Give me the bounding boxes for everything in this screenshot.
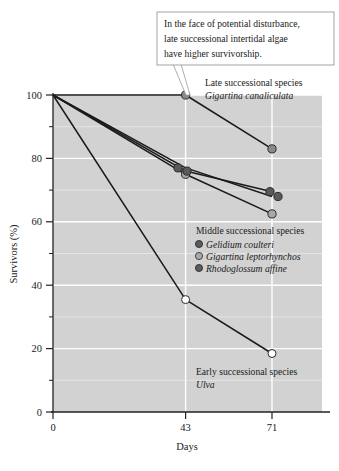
callout-pointer — [173, 64, 190, 95]
marker-gigartina-leptorhynchos-d71 — [268, 210, 276, 218]
x-axis-title: Days — [176, 441, 198, 452]
legend-marker-gigartina-leptorhynchos — [195, 252, 202, 259]
x-tick-label-0: 0 — [50, 422, 55, 433]
legend-label-gelidium-coulteri: Gelidium coulteri — [206, 239, 274, 250]
early-label-species: Ulva — [196, 379, 215, 390]
callout-line-1: In the face of potential disturbance, — [164, 18, 300, 29]
legend-marker-gelidium-coulteri — [195, 240, 202, 247]
x-tick-label-43: 43 — [180, 422, 191, 433]
survivorship-line-chart: 100 80 60 40 20 0 0 43 71 Days Survivors… — [0, 0, 339, 471]
marker-gelidium-coulteri-d71 — [274, 192, 282, 200]
marker-rhodoglossum-affine-d71 — [266, 188, 274, 196]
y-tick-label-60: 60 — [32, 216, 43, 227]
middle-legend-heading: Middle successional species — [196, 225, 304, 236]
marker-gigartina-canaliculata-d71 — [268, 145, 276, 153]
late-label-heading: Late successional species — [205, 77, 303, 88]
y-tick-label-80: 80 — [32, 153, 43, 164]
late-label-species: Gigartina canaliculata — [205, 90, 293, 101]
legend-label-rhodoglossum-affine: Rhodoglossum affine — [205, 263, 287, 274]
x-axis-ticks — [53, 412, 272, 419]
callout-line-3: have higher survivorship. — [164, 48, 262, 59]
callout-line-2: late successional intertidal algae — [164, 33, 288, 44]
marker-ulva-d43 — [182, 296, 190, 304]
marker-gelidium-coulteri-d43 — [174, 164, 182, 172]
y-tick-label-40: 40 — [32, 280, 43, 291]
x-tick-label-71: 71 — [267, 422, 278, 433]
y-tick-label-0: 0 — [37, 407, 42, 418]
y-tick-label-100: 100 — [26, 90, 42, 101]
marker-rhodoglossum-affine-d43 — [183, 167, 191, 175]
legend-marker-rhodoglossum-affine — [195, 264, 202, 271]
y-tick-label-20: 20 — [32, 343, 43, 354]
marker-ulva-d71 — [268, 350, 276, 358]
y-axis-title: Survivors (%) — [8, 224, 20, 284]
early-label-heading: Early successional species — [196, 366, 297, 377]
legend-label-gigartina-leptorhynchos: Gigartina leptorhynchos — [206, 251, 301, 262]
figure-container: 100 80 60 40 20 0 0 43 71 Days Survivors… — [0, 0, 339, 471]
late-successional-label: Late successional species Gigartina cana… — [205, 77, 303, 101]
